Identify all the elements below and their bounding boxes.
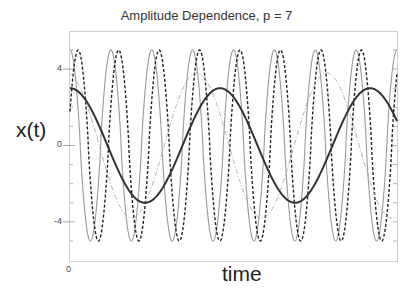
plot-area <box>0 0 413 296</box>
series-lines <box>70 50 397 241</box>
plot-frame <box>70 32 398 262</box>
series-line-1 <box>70 50 397 241</box>
series-line-0 <box>70 50 397 241</box>
